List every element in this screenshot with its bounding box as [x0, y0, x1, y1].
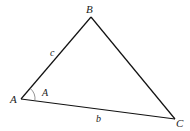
triangle-diagram: A B C c b A	[0, 0, 190, 131]
vertex-label-C: C	[176, 117, 184, 129]
side-a-BC	[91, 17, 175, 119]
vertex-label-A: A	[9, 93, 17, 105]
angle-label-A: A	[41, 87, 49, 98]
side-label-c: c	[50, 47, 55, 58]
side-c-AB	[21, 17, 91, 99]
angle-arc-A	[30, 88, 35, 101]
vertex-label-B: B	[86, 3, 93, 15]
side-label-b: b	[96, 113, 101, 124]
